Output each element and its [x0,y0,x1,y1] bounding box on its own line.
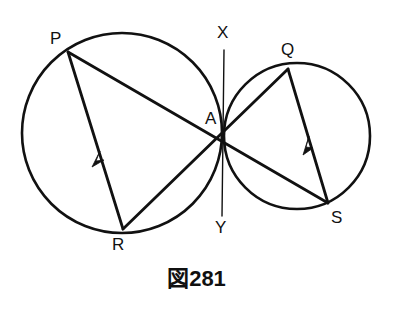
left-circle [22,33,222,233]
point-label-P: P [50,30,61,47]
point-label-X: X [217,24,228,41]
point-label-S: S [331,209,342,226]
point-label-Y: Y [215,219,226,236]
segment-X-Y [222,50,224,216]
point-label-R: R [112,236,124,253]
figure-caption: 図281 [167,268,226,290]
point-label-A: A [205,110,216,127]
figure-container: P Q R S A X Y 図281 [0,0,393,311]
point-label-Q: Q [281,41,294,58]
figure-caption-bar: 図281 [0,268,393,290]
right-circle [224,63,370,209]
segment-Q-R [123,69,288,229]
